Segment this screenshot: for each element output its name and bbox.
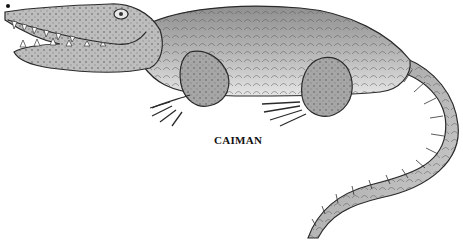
caiman-illustration: CAIMAN: [0, 0, 463, 243]
head: [5, 4, 162, 72]
caiman-drawing: [0, 0, 463, 243]
front-claws: [150, 102, 182, 126]
caption: CAIMAN: [214, 134, 262, 146]
body: [130, 6, 410, 96]
hind-claws: [262, 102, 306, 126]
nostril: [6, 4, 10, 8]
